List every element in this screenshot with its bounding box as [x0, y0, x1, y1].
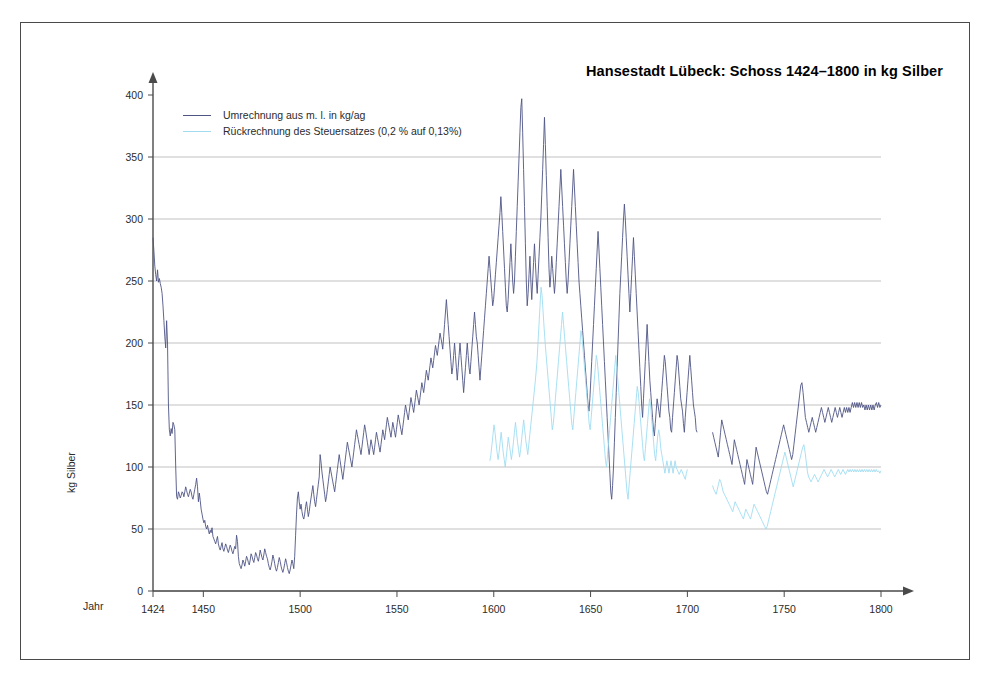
series-line-2-segment-a	[490, 287, 687, 499]
series-line-1-segment-b	[713, 383, 881, 495]
x-tick-label: 1424	[141, 603, 165, 615]
x-tick-label: 1750	[773, 603, 797, 615]
y-tick-label: 200	[125, 337, 143, 349]
x-axis-ticks-group: 142414501500155016001650170017501800	[141, 591, 893, 615]
series-line-2-segment-b	[713, 445, 881, 529]
series-line-1-segment-a	[153, 99, 697, 574]
x-tick-label: 1800	[869, 603, 893, 615]
x-tick-label: 1550	[385, 603, 409, 615]
y-tick-label: 300	[125, 213, 143, 225]
x-tick-label: 1700	[676, 603, 700, 615]
y-tick-label: 100	[125, 461, 143, 473]
series-group	[153, 99, 881, 574]
y-tick-label: 250	[125, 275, 143, 287]
x-tick-label: 1450	[192, 603, 216, 615]
x-tick-label: 1500	[288, 603, 312, 615]
y-axis-ticks-group: 050100150200250300350400	[125, 89, 153, 597]
axis-lines-group	[149, 72, 915, 596]
x-tick-label: 1600	[482, 603, 506, 615]
y-tick-label: 50	[131, 523, 143, 535]
y-tick-label: 400	[125, 89, 143, 101]
x-tick-label: 1650	[579, 603, 603, 615]
x-axis-title: Jahr	[83, 600, 104, 612]
chart-plot-area: 050100150200250300350400 142414501500155…	[21, 23, 971, 661]
y-tick-label: 350	[125, 151, 143, 163]
figure-frame: Hansestadt Lübeck: Schoss 1424–1800 in k…	[20, 22, 970, 660]
y-tick-label: 150	[125, 399, 143, 411]
y-tick-label: 0	[137, 585, 143, 597]
